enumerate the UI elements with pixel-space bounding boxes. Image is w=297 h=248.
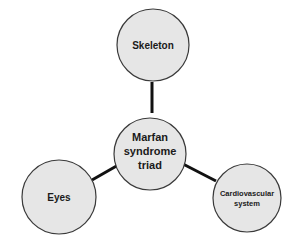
node-cardiovascular-label-line-2: system	[234, 199, 260, 208]
center-label-line-2: syndrome	[124, 145, 177, 157]
diagram-canvas: Skeleton Marfan syndrome triad Eyes Card…	[0, 0, 297, 248]
center-label-line-3: triad	[138, 159, 162, 171]
node-skeleton: Skeleton	[117, 9, 189, 81]
node-skeleton-label: Skeleton	[132, 40, 174, 51]
center-label-line-1: Marfan	[132, 131, 168, 143]
node-eyes-label: Eyes	[47, 192, 71, 203]
edge-center-cardiovascular	[183, 164, 216, 181]
node-cardiovascular: Cardiovascular system	[213, 164, 281, 232]
node-eyes: Eyes	[22, 160, 96, 234]
node-cardiovascular-label-line-1: Cardiovascular	[220, 189, 274, 198]
node-center: Marfan syndrome triad	[114, 118, 186, 190]
